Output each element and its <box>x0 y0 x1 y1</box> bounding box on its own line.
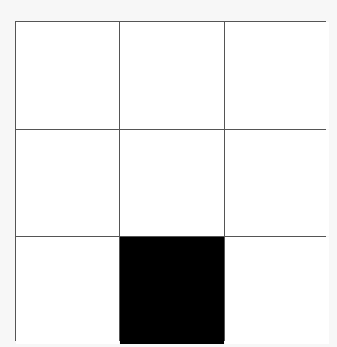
grid-cell-r3-c1[interactable] <box>16 237 119 344</box>
grid-cell-r2-c3[interactable] <box>225 130 329 236</box>
grid-cell-r3-c2-filled[interactable] <box>120 237 224 344</box>
grid-cell-r2-c1[interactable] <box>16 130 119 236</box>
grid-cell-r2-c2[interactable] <box>120 130 224 236</box>
grid-cell-r1-c3[interactable] <box>225 22 329 129</box>
grid-3x3 <box>15 21 326 341</box>
grid-cell-r1-c1[interactable] <box>16 22 119 129</box>
grid-cell-r1-c2[interactable] <box>120 22 224 129</box>
grid-cell-r3-c3[interactable] <box>225 237 329 344</box>
